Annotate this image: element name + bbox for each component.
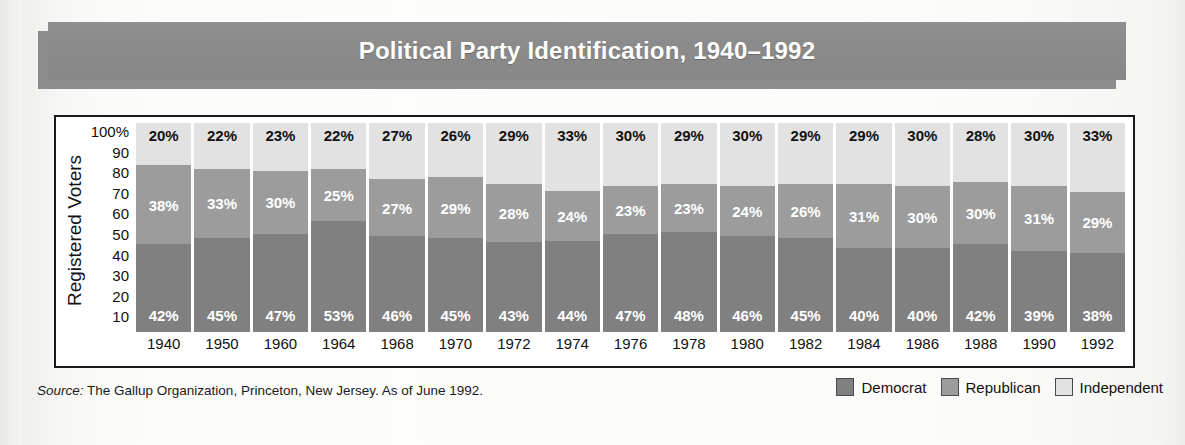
bar-1988: 28%30%42%: [953, 123, 1008, 332]
y-axis-ticks: 100%908070605040302010: [89, 123, 131, 331]
segment-democrat-1990: 39%: [1011, 251, 1066, 333]
segment-democrat-1992: 38%: [1070, 253, 1125, 332]
bar-1990: 30%31%39%: [1011, 123, 1066, 332]
segment-republican-1978: 23%: [661, 184, 716, 232]
bar-1974: 33%24%44%: [545, 123, 600, 332]
segment-value-label: 29%: [486, 127, 541, 144]
y-axis-tick: 30: [89, 268, 131, 289]
y-axis: Registered Voters 100%908070605040302010: [62, 123, 131, 362]
segment-independent-1950: 22%: [194, 123, 249, 169]
x-axis-tick-1968: 1968: [369, 335, 424, 352]
segment-independent-1984: 29%: [836, 123, 891, 184]
segment-republican-1950: 33%: [194, 169, 249, 238]
x-axis-tick-1950: 1950: [194, 335, 249, 352]
segment-value-label: 27%: [369, 199, 424, 216]
segment-value-label: 22%: [311, 127, 366, 144]
segment-democrat-1970: 45%: [428, 238, 483, 332]
segment-value-label: 33%: [545, 127, 600, 144]
segment-republican-1974: 24%: [545, 191, 600, 241]
segment-independent-1992: 33%: [1070, 123, 1125, 192]
source-label: Source:: [37, 383, 84, 398]
segment-value-label: 26%: [778, 202, 833, 219]
x-axis-tick-1972: 1972: [486, 335, 541, 352]
x-axis-tick-1992: 1992: [1070, 335, 1125, 352]
segment-value-label: 27%: [369, 127, 424, 144]
segment-republican-1968: 27%: [369, 179, 424, 235]
segment-value-label: 30%: [253, 194, 308, 211]
segment-value-label: 46%: [369, 307, 424, 324]
y-axis-tick: 50: [89, 227, 131, 248]
segment-value-label: 29%: [661, 127, 716, 144]
legend-item-republican: Republican: [941, 378, 1041, 396]
segment-republican-1964: 25%: [311, 169, 366, 221]
segment-value-label: 29%: [778, 127, 833, 144]
segment-value-label: 30%: [603, 127, 658, 144]
bar-1984: 29%31%40%: [836, 123, 891, 332]
segment-republican-1960: 30%: [253, 171, 308, 234]
segment-independent-1982: 29%: [778, 123, 833, 184]
segment-independent-1970: 26%: [428, 123, 483, 177]
page-left-margin: [0, 0, 22, 445]
bar-1976: 30%23%47%: [603, 123, 658, 332]
segment-value-label: 40%: [895, 307, 950, 324]
segment-value-label: 38%: [136, 196, 191, 213]
x-axis-tick-1980: 1980: [720, 335, 775, 352]
y-axis-tick: 80: [89, 165, 131, 186]
segment-democrat-1984: 40%: [836, 248, 891, 332]
segment-independent-1986: 30%: [895, 123, 950, 186]
source-text: The Gallup Organization, Princeton, New …: [87, 383, 483, 398]
segment-democrat-1964: 53%: [311, 221, 366, 332]
segment-democrat-1982: 45%: [778, 238, 833, 332]
x-axis-tick-1986: 1986: [895, 335, 950, 352]
segment-democrat-1980: 46%: [720, 236, 775, 332]
segment-independent-1972: 29%: [486, 123, 541, 184]
x-axis-tick-1976: 1976: [603, 335, 658, 352]
segment-independent-1990: 30%: [1011, 123, 1066, 186]
segment-value-label: 39%: [1011, 307, 1066, 324]
segment-value-label: 48%: [661, 307, 716, 324]
y-axis-tick: 60: [89, 206, 131, 227]
y-axis-tick: 90: [89, 145, 131, 166]
segment-value-label: 23%: [661, 199, 716, 216]
segment-independent-1960: 23%: [253, 123, 308, 171]
segment-value-label: 30%: [720, 127, 775, 144]
segment-republican-1976: 23%: [603, 186, 658, 234]
legend-swatch-republican: [941, 378, 959, 396]
bar-1978: 29%23%48%: [661, 123, 716, 332]
segment-value-label: 44%: [545, 307, 600, 324]
source-note: Source: The Gallup Organization, Princet…: [37, 383, 483, 398]
segment-democrat-1974: 44%: [545, 241, 600, 332]
y-axis-tick: 70: [89, 186, 131, 207]
segment-value-label: 33%: [194, 195, 249, 212]
segment-value-label: 45%: [428, 307, 483, 324]
y-axis-tick: 10: [89, 309, 131, 330]
segment-republican-1982: 26%: [778, 184, 833, 238]
segment-democrat-1968: 46%: [369, 236, 424, 332]
segment-value-label: 23%: [603, 201, 658, 218]
bar-1940: 20%38%42%: [136, 123, 191, 332]
segment-democrat-1960: 47%: [253, 234, 308, 332]
chart-legend: DemocratRepublicanIndependent: [836, 378, 1163, 396]
title-banner: Political Party Identification, 1940–199…: [48, 22, 1126, 80]
bar-1992: 33%29%38%: [1070, 123, 1125, 332]
segment-republican-1988: 30%: [953, 182, 1008, 245]
segment-republican-1970: 29%: [428, 177, 483, 238]
bar-1964: 22%25%53%: [311, 123, 366, 332]
segment-independent-1964: 22%: [311, 123, 366, 169]
x-axis-tick-1990: 1990: [1011, 335, 1066, 352]
segment-independent-1978: 29%: [661, 123, 716, 184]
segment-value-label: 23%: [253, 127, 308, 144]
chart-frame: Registered Voters 100%908070605040302010…: [54, 115, 1135, 368]
segment-republican-1990: 31%: [1011, 186, 1066, 251]
segment-value-label: 20%: [136, 127, 191, 144]
segment-independent-1980: 30%: [720, 123, 775, 186]
segment-value-label: 46%: [720, 307, 775, 324]
bar-1980: 30%24%46%: [720, 123, 775, 332]
legend-label: Republican: [966, 379, 1041, 396]
segment-independent-1988: 28%: [953, 123, 1008, 182]
segment-democrat-1976: 47%: [603, 234, 658, 332]
x-axis-tick-1970: 1970: [428, 335, 483, 352]
segment-value-label: 28%: [953, 127, 1008, 144]
segment-republican-1986: 30%: [895, 186, 950, 249]
segment-value-label: 29%: [428, 199, 483, 216]
